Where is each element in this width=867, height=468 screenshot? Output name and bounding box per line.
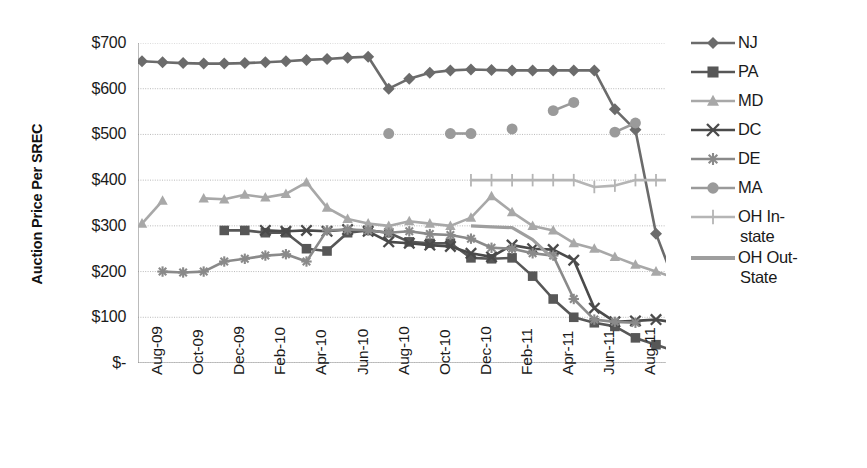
legend-item-label: DE bbox=[736, 150, 760, 167]
legend-item-oh-out[interactable]: OH Out- bbox=[690, 249, 865, 267]
legend-item-label: MA bbox=[736, 179, 762, 196]
legend-item-md[interactable]: MD bbox=[690, 92, 865, 110]
legend-item-label: OH Out- bbox=[736, 249, 797, 266]
legend-item-de[interactable]: DE bbox=[690, 150, 865, 168]
x-tick-label: Feb-11 bbox=[518, 328, 536, 375]
chart-legend: NJPAMDDCDEMAOH In-stateOH Out-State bbox=[690, 34, 865, 290]
legend-item-label-continued: state bbox=[690, 228, 865, 245]
triangle-icon bbox=[690, 92, 736, 110]
star-icon bbox=[690, 150, 736, 168]
star-marker-icon bbox=[690, 150, 736, 168]
x-tick-label: Aug-10 bbox=[395, 326, 413, 375]
x-marker-icon bbox=[690, 121, 736, 139]
data-point-marker bbox=[707, 182, 718, 193]
legend-item-label: NJ bbox=[736, 34, 758, 51]
x-tick-label: Oct-10 bbox=[436, 330, 454, 375]
diamond-marker-icon bbox=[690, 34, 736, 52]
plus-icon bbox=[690, 208, 736, 226]
data-point-marker bbox=[707, 153, 719, 165]
x-tick-label: Aug-09 bbox=[148, 326, 166, 375]
x-tick-label: Apr-10 bbox=[312, 330, 330, 375]
data-point-marker bbox=[707, 37, 719, 49]
plus-marker-icon bbox=[690, 208, 736, 226]
legend-item-pa[interactable]: PA bbox=[690, 63, 865, 81]
legend-item-label: PA bbox=[736, 63, 758, 80]
chart-root: Auction Price Per SREC $700$600$500$400$… bbox=[0, 0, 867, 468]
circle-marker-icon bbox=[690, 179, 736, 197]
x-tick-label: Jun-11 bbox=[600, 330, 618, 375]
none-marker-icon bbox=[690, 249, 736, 267]
x-icon bbox=[690, 121, 736, 139]
legend-item-label: DC bbox=[736, 121, 761, 138]
square-marker-icon bbox=[690, 63, 736, 81]
legend-item-label: OH In- bbox=[736, 208, 785, 225]
square-icon bbox=[690, 63, 736, 81]
x-tick-label: Dec-09 bbox=[230, 326, 248, 375]
x-tick-label: Oct-09 bbox=[189, 330, 207, 375]
legend-item-label: MD bbox=[736, 92, 763, 109]
x-tick-label: Feb-10 bbox=[271, 327, 289, 375]
none-icon bbox=[690, 249, 736, 267]
legend-item-oh-in[interactable]: OH In- bbox=[690, 208, 865, 226]
data-point-marker bbox=[707, 66, 718, 77]
x-tick-label: Apr-11 bbox=[559, 331, 577, 375]
circle-icon bbox=[690, 179, 736, 197]
diamond-icon bbox=[690, 34, 736, 52]
triangle-marker-icon bbox=[690, 92, 736, 110]
x-tick-label: Dec-10 bbox=[477, 326, 495, 375]
legend-item-dc[interactable]: DC bbox=[690, 121, 865, 139]
legend-item-label-continued: State bbox=[690, 269, 865, 286]
x-tick-label: Jun-10 bbox=[354, 329, 372, 375]
x-tick-label: Aug-11 bbox=[641, 327, 659, 375]
legend-item-ma[interactable]: MA bbox=[690, 179, 865, 197]
legend-item-nj[interactable]: NJ bbox=[690, 34, 865, 52]
